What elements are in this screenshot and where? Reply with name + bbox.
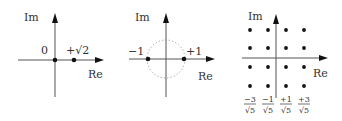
real-axis-arrow-icon xyxy=(95,57,104,63)
tick-label-3: +1 √5 xyxy=(280,95,292,115)
constellation-point xyxy=(284,46,288,50)
tick-denominator: √5 xyxy=(281,106,291,115)
tick-numerator: +3 xyxy=(298,95,310,104)
constellation-point xyxy=(302,46,306,50)
real-axis-label: Re xyxy=(88,68,103,81)
real-axis-arrow-icon xyxy=(206,56,215,62)
tick-label-4: +3 √5 xyxy=(298,95,310,115)
constellation-point xyxy=(53,58,58,63)
constellation-point xyxy=(248,65,252,69)
constellation-point xyxy=(266,65,270,69)
constellation-point xyxy=(266,46,270,50)
constellation-point xyxy=(302,65,306,69)
panel-2: Im Re −1 +1 xyxy=(128,11,215,97)
real-axis-arrow-icon xyxy=(319,55,328,61)
tick-denominator: √5 xyxy=(245,106,255,115)
constellation-point xyxy=(302,84,306,88)
imag-axis-label: Im xyxy=(135,11,150,24)
tick-denominator: √5 xyxy=(263,106,273,115)
panel-1: Im Re 0 +√2 xyxy=(18,11,104,97)
constellation-point xyxy=(302,28,306,32)
real-axis-label: Re xyxy=(313,67,328,80)
minus-one-label: −1 xyxy=(128,45,144,58)
imag-axis-label: Im xyxy=(248,10,263,23)
constellation-point xyxy=(284,84,288,88)
tick-denominator: √5 xyxy=(299,106,309,115)
plus-one-label: +1 xyxy=(186,45,202,58)
constellation-diagrams: Im Re 0 +√2 Im Re −1 +1 Im Re xyxy=(0,0,342,121)
constellation-point xyxy=(248,84,252,88)
point-label: +√2 xyxy=(66,44,89,57)
constellation-point xyxy=(284,28,288,32)
imag-axis-arrow-icon xyxy=(273,14,279,24)
imag-axis-label: Im xyxy=(24,11,39,24)
constellation-point xyxy=(248,28,252,32)
imag-axis-arrow-icon xyxy=(163,13,169,23)
constellation-point xyxy=(266,84,270,88)
tick-label-2: −1 √5 xyxy=(262,95,274,115)
constellation-point xyxy=(266,28,270,32)
constellation-point xyxy=(146,57,151,62)
real-axis-label: Re xyxy=(198,70,213,83)
constellation-point xyxy=(248,46,252,50)
panel-3: Im Re −3 √5 −1 xyxy=(242,10,328,115)
constellation-point xyxy=(72,58,77,63)
constellation-point xyxy=(284,65,288,69)
constellation-point xyxy=(182,57,187,62)
tick-label-1: −3 √5 xyxy=(244,95,256,115)
imag-axis-arrow-icon xyxy=(52,13,58,23)
tick-numerator: −1 xyxy=(262,95,274,104)
tick-numerator: +1 xyxy=(280,95,292,104)
tick-numerator: −3 xyxy=(244,95,256,104)
origin-label: 0 xyxy=(41,44,48,57)
